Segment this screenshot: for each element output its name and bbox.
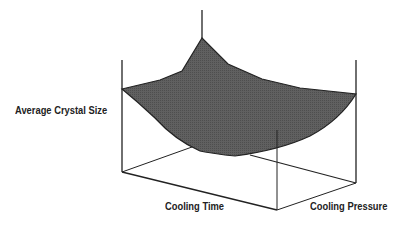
y-axis-label: Cooling Pressure	[310, 200, 387, 212]
x-axis-label: Cooling Time	[165, 200, 224, 212]
floor-back-right	[250, 155, 356, 183]
z-axis-label: Average Crystal Size	[15, 104, 107, 116]
floor-back-left	[122, 147, 192, 172]
surface	[122, 38, 356, 156]
